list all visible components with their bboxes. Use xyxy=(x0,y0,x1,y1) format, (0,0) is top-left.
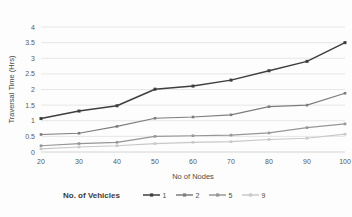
y-tick-label: 4 xyxy=(31,24,35,31)
data-point xyxy=(344,133,347,136)
legend-label: 5 xyxy=(229,192,233,199)
y-tick-label: 0.5 xyxy=(25,133,35,140)
series-2 xyxy=(40,92,347,136)
legend-swatch-marker xyxy=(216,193,219,196)
data-point xyxy=(154,135,157,138)
y-tick-label: 0 xyxy=(31,149,35,156)
x-tick-label: 30 xyxy=(75,158,83,165)
data-point xyxy=(268,105,271,108)
x-axis-title: No of Nodes xyxy=(172,172,214,181)
chart-figure: 00.511.522.533.54 2030405060708090100 Tr… xyxy=(0,0,352,217)
x-tick-label: 100 xyxy=(339,158,351,165)
data-point xyxy=(78,110,81,113)
data-point xyxy=(116,104,119,107)
data-point xyxy=(268,132,271,135)
data-point xyxy=(344,92,347,95)
x-tick-label: 80 xyxy=(265,158,273,165)
data-point xyxy=(154,117,157,120)
x-tick-label: 40 xyxy=(113,158,121,165)
x-tick-label: 50 xyxy=(151,158,159,165)
data-point xyxy=(268,138,271,141)
data-point xyxy=(78,132,81,135)
data-point xyxy=(306,137,309,140)
y-tick-label: 2 xyxy=(31,86,35,93)
data-point xyxy=(306,104,309,107)
legend-item-1[interactable]: 1 xyxy=(143,192,167,199)
y-tick-label: 3.5 xyxy=(25,39,35,46)
data-point xyxy=(40,148,43,151)
data-point xyxy=(192,116,195,119)
data-point xyxy=(154,142,157,145)
legend-label: 9 xyxy=(262,192,266,199)
gridlines xyxy=(41,27,345,152)
legend-label: 2 xyxy=(196,192,200,199)
data-point xyxy=(116,141,119,144)
legend-swatch-marker xyxy=(150,193,153,196)
data-point xyxy=(268,69,271,72)
data-point xyxy=(230,114,233,117)
data-point xyxy=(116,125,119,128)
data-point xyxy=(192,134,195,137)
data-point xyxy=(40,117,43,120)
data-point xyxy=(230,79,233,82)
legend-item-2[interactable]: 2 xyxy=(176,192,200,199)
data-point xyxy=(230,140,233,143)
series-line xyxy=(41,43,345,119)
y-tick-label: 3 xyxy=(31,55,35,62)
data-point xyxy=(344,41,347,44)
y-tick-label: 2.5 xyxy=(25,70,35,77)
x-tick-label: 90 xyxy=(303,158,311,165)
data-point xyxy=(78,146,81,149)
chart-legend: No. of Vehicles1259 xyxy=(63,191,266,200)
legend-title: No. of Vehicles xyxy=(63,191,120,200)
data-point xyxy=(306,60,309,63)
data-point xyxy=(40,144,43,147)
series-1 xyxy=(40,41,347,120)
x-tick-label: 20 xyxy=(37,158,45,165)
data-point xyxy=(306,126,309,129)
legend-label: 1 xyxy=(163,192,167,199)
data-point xyxy=(344,123,347,126)
x-axis-tick-labels: 2030405060708090100 xyxy=(37,158,351,165)
traversal-time-line-chart: 00.511.522.533.54 2030405060708090100 Tr… xyxy=(0,0,352,217)
x-tick-label: 60 xyxy=(189,158,197,165)
y-tick-label: 1 xyxy=(31,117,35,124)
series-layer xyxy=(40,41,347,150)
legend-swatch-marker xyxy=(249,193,252,196)
x-tick-label: 70 xyxy=(227,158,235,165)
data-point xyxy=(40,133,43,136)
data-point xyxy=(192,85,195,88)
data-point xyxy=(192,141,195,144)
data-point xyxy=(154,88,157,91)
y-axis-tick-labels: 00.511.522.533.54 xyxy=(25,24,35,156)
legend-swatch-marker xyxy=(183,193,186,196)
data-point xyxy=(78,142,81,145)
data-point xyxy=(116,144,119,147)
legend-item-5[interactable]: 5 xyxy=(209,192,233,199)
y-axis-title: Traversal Time (Hrs) xyxy=(7,55,16,124)
y-tick-label: 1.5 xyxy=(25,102,35,109)
data-point xyxy=(230,134,233,137)
legend-item-9[interactable]: 9 xyxy=(242,192,266,199)
